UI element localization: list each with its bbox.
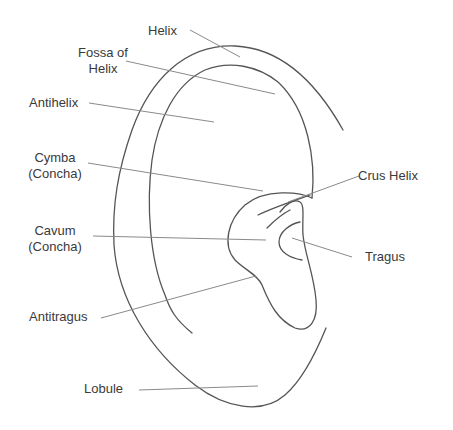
label-fossa-line1: Fossa of	[68, 45, 138, 61]
label-helix: Helix	[148, 23, 177, 39]
label-cavum-line2: (Concha)	[24, 239, 86, 255]
leader-tragus	[292, 238, 352, 257]
leader-antitragus	[101, 276, 256, 318]
label-cymba-line2: (Concha)	[24, 166, 86, 182]
label-lobule: Lobule	[84, 381, 123, 397]
leader-cavum	[93, 236, 266, 240]
label-crus-helix: Crus Helix	[358, 168, 418, 184]
leader-crus-helix	[288, 176, 359, 202]
crus-inner-stroke	[267, 210, 290, 228]
leader-cymba	[88, 163, 263, 191]
leader-antihelix	[89, 103, 214, 122]
label-cymba-line1: Cymba	[24, 150, 86, 166]
label-antitragus: Antitragus	[29, 309, 88, 325]
tragus-outline	[279, 222, 302, 260]
label-antihelix: Antihelix	[29, 95, 78, 111]
label-cavum-line1: Cavum	[24, 223, 86, 239]
inner-helix-outline	[149, 65, 313, 333]
label-cymba-concha: Cymba (Concha)	[24, 150, 86, 182]
label-fossa-line2: Helix	[68, 61, 138, 77]
leader-fossa-of-helix	[126, 61, 275, 94]
ear-anatomy-diagram: Helix Fossa of Helix Antihelix Cymba (Co…	[0, 0, 453, 430]
label-tragus: Tragus	[365, 249, 405, 265]
label-cavum-concha: Cavum (Concha)	[24, 223, 86, 255]
leader-lobule	[139, 386, 258, 390]
concha-outline	[228, 193, 316, 329]
outer-helix-outline	[114, 46, 343, 407]
label-fossa-of-helix: Fossa of Helix	[68, 45, 138, 77]
